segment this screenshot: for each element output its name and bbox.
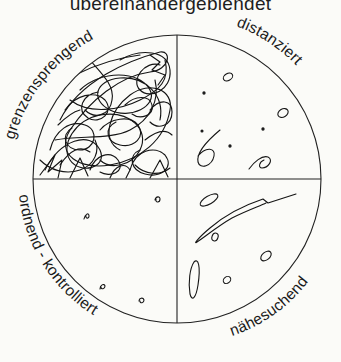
quadrant-top-left-scribbles: [40, 52, 172, 178]
circle-frame: [33, 35, 321, 323]
quadrant-bottom-right-marks: [189, 192, 296, 299]
label-ordnend-kontrolliert: ordnend - kontrolliert: [16, 193, 102, 318]
quadrant-circle-diagram: grenzensprengend distanziert ordnend - k…: [0, 0, 341, 362]
quadrant-top-right-marks: [198, 71, 290, 169]
quadrant-bottom-left-marks: [84, 197, 160, 303]
label-naehesuchend: nähesuchend: [227, 273, 311, 339]
label-distanziert: distanziert: [235, 13, 307, 68]
